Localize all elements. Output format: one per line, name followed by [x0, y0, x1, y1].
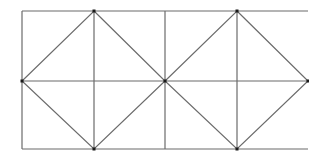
vertex-dot: [307, 80, 310, 83]
vertex-dot: [164, 80, 167, 83]
vertex-dot: [21, 80, 24, 83]
vertex-dot: [236, 10, 239, 13]
vertex-dot: [236, 148, 239, 151]
geometry-diagram: [0, 0, 309, 155]
vertex-dot: [93, 10, 96, 13]
vertex-dot: [93, 148, 96, 151]
